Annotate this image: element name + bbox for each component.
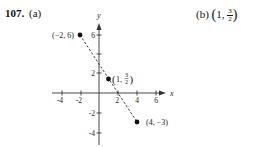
point-label-1-3half: ( 1, 3 2 ) [112, 72, 134, 86]
x-tick-labels: -4 -2 2 4 6 [57, 96, 158, 105]
svg-text:1,: 1, [116, 75, 122, 84]
svg-text:2: 2 [91, 69, 95, 78]
y-axis-label: y [96, 11, 101, 20]
svg-text:3: 3 [125, 72, 128, 78]
y-axis [97, 23, 102, 145]
svg-text:-2: -2 [76, 96, 82, 105]
point-label-neg2-6: (−2, 6) [52, 31, 74, 40]
point-label-4-neg3: (4, −3) [146, 118, 168, 127]
svg-text:-4: -4 [57, 96, 63, 105]
svg-text:4: 4 [135, 96, 139, 105]
point-neg2-6 [78, 33, 83, 38]
svg-text:-4: -4 [89, 129, 95, 138]
x-axis [52, 91, 166, 96]
x-axis-label: x [169, 89, 174, 98]
point-1-3half [106, 77, 111, 82]
svg-text:2: 2 [125, 79, 128, 85]
svg-text:6: 6 [91, 31, 95, 40]
point-4-neg3 [135, 120, 140, 125]
svg-text:6: 6 [154, 96, 158, 105]
svg-text:): ) [130, 73, 134, 86]
svg-text:-2: -2 [89, 109, 95, 118]
y-tick-labels: -4 -2 2 6 [89, 31, 96, 138]
svg-text:2: 2 [115, 96, 119, 105]
coordinate-plot: x y -4 -2 2 4 6 -4 -2 2 6 (−2, 6) (4, −3… [0, 0, 254, 147]
